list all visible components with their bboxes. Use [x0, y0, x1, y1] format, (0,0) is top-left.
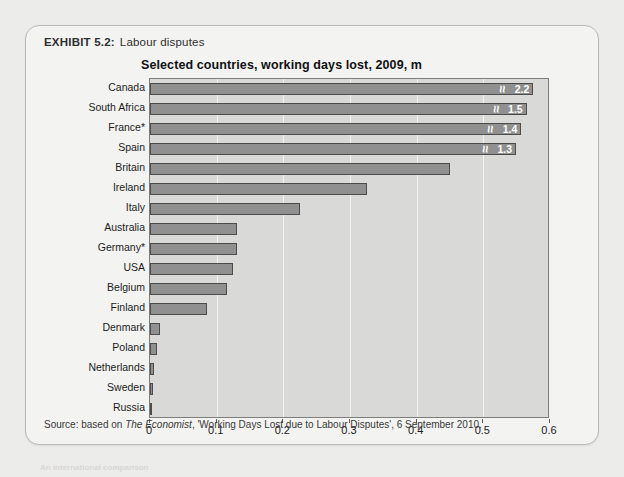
bar-row[interactable]	[150, 179, 548, 199]
category-label: Denmark	[26, 321, 145, 333]
bar[interactable]	[150, 283, 227, 295]
bar-row[interactable]	[150, 379, 548, 399]
category-label: Australia	[26, 221, 145, 233]
bar[interactable]	[150, 163, 450, 175]
axis-break-icon: ≈	[496, 85, 508, 94]
axis-break-icon: ≈	[484, 125, 496, 134]
bar[interactable]	[150, 263, 233, 275]
bar[interactable]: ≈1.3	[150, 143, 516, 155]
bar[interactable]	[150, 323, 160, 335]
category-label: Netherlands	[26, 361, 145, 373]
bleedthrough-text: An international comparison	[40, 463, 148, 472]
category-label: Italy	[26, 201, 145, 213]
category-label: USA	[26, 261, 145, 273]
bar-row[interactable]: ≈1.4	[150, 119, 548, 139]
bar-series: ≈2.2≈1.5≈1.4≈1.3	[150, 79, 548, 417]
bar[interactable]	[150, 203, 300, 215]
axis-break-icon: ≈	[479, 145, 491, 154]
exhibit-panel: EXHIBIT 5.2:Labour disputes Selected cou…	[25, 25, 599, 445]
source-prefix: Source: based on	[44, 419, 125, 430]
source-note: Source: based on The Economist, 'Working…	[44, 419, 482, 430]
bar-row[interactable]	[150, 259, 548, 279]
x-tick-label: 0.6	[541, 424, 556, 436]
category-label: Sweden	[26, 381, 145, 393]
axis-break-icon: ≈	[489, 105, 501, 114]
bar[interactable]: ≈1.4	[150, 123, 521, 135]
bar-value-label: 1.5	[508, 103, 523, 116]
category-label: Belgium	[26, 281, 145, 293]
bar[interactable]	[150, 363, 154, 375]
bar-row[interactable]: ≈1.5	[150, 99, 548, 119]
source-suffix: , 'Working Days Lost due to Labour Dispu…	[192, 419, 482, 430]
category-label: South Africa	[26, 101, 145, 113]
category-label: Poland	[26, 341, 145, 353]
x-tick-mark	[482, 419, 483, 423]
bar[interactable]: ≈1.5	[150, 103, 527, 115]
bar-row[interactable]	[150, 339, 548, 359]
category-label: Russia	[26, 401, 145, 413]
category-label: Britain	[26, 161, 145, 173]
source-publication: The Economist	[125, 419, 192, 430]
category-label: Finland	[26, 301, 145, 313]
bar-row[interactable]	[150, 399, 548, 419]
category-label: Canada	[26, 81, 145, 93]
category-axis-labels: CanadaSouth AfricaFrance*SpainBritainIre…	[26, 78, 145, 418]
category-label: France*	[26, 121, 145, 133]
bar-row[interactable]	[150, 199, 548, 219]
category-label: Germany*	[26, 241, 145, 253]
category-label: Ireland	[26, 181, 145, 193]
x-tick-mark	[549, 419, 550, 423]
bar[interactable]	[150, 183, 367, 195]
bar-value-label: 1.4	[503, 123, 518, 136]
bar-row[interactable]	[150, 239, 548, 259]
bar-row[interactable]	[150, 279, 548, 299]
bar[interactable]	[150, 303, 207, 315]
bar[interactable]	[150, 223, 237, 235]
bar-row[interactable]	[150, 219, 548, 239]
bar[interactable]	[150, 383, 153, 395]
bar-value-label: 1.3	[497, 143, 512, 156]
gridline	[550, 79, 551, 417]
bar-row[interactable]	[150, 299, 548, 319]
bar[interactable]	[150, 403, 152, 415]
bar-row[interactable]: ≈1.3	[150, 139, 548, 159]
bar[interactable]	[150, 343, 157, 355]
bar[interactable]	[150, 243, 237, 255]
bar-row[interactable]	[150, 359, 548, 379]
category-label: Spain	[26, 141, 145, 153]
bar-row[interactable]: ≈2.2	[150, 79, 548, 99]
bar-row[interactable]	[150, 319, 548, 339]
bar-row[interactable]	[150, 159, 548, 179]
chart-plot-wrapper: CanadaSouth AfricaFrance*SpainBritainIre…	[26, 26, 600, 446]
bar-value-label: 2.2	[515, 83, 530, 96]
bar[interactable]: ≈2.2	[150, 83, 533, 95]
plot-area: ≈2.2≈1.5≈1.4≈1.3	[149, 78, 549, 418]
